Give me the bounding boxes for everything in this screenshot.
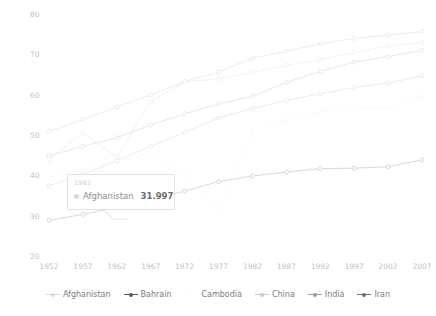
data-point[interactable] xyxy=(386,81,390,85)
x-axis-tick-label: 2002 xyxy=(379,262,398,271)
data-point[interactable] xyxy=(420,30,424,34)
data-point[interactable] xyxy=(149,93,153,97)
x-axis-ticks: 1952195719621967197219771982198719921997… xyxy=(39,262,431,271)
data-point[interactable] xyxy=(81,168,85,172)
data-point[interactable] xyxy=(250,129,254,133)
data-point[interactable] xyxy=(217,102,221,106)
data-point[interactable] xyxy=(115,159,119,163)
data-point[interactable] xyxy=(284,63,288,67)
data-point[interactable] xyxy=(352,166,356,170)
legend-marker-icon xyxy=(357,290,371,299)
data-point[interactable] xyxy=(149,99,153,103)
data-point[interactable] xyxy=(386,165,390,169)
data-point[interactable] xyxy=(420,74,424,78)
data-point[interactable] xyxy=(183,189,187,193)
data-point[interactable] xyxy=(318,110,322,114)
data-point[interactable] xyxy=(47,154,51,158)
tooltip-series-row: Afghanistan 31.997 xyxy=(74,191,168,201)
data-point[interactable] xyxy=(386,55,390,59)
legend-item-label: Cambodia xyxy=(201,290,241,299)
legend-item-afghanistan[interactable]: Afghanistan xyxy=(46,290,111,299)
x-axis-tick-label: 1982 xyxy=(243,262,262,271)
x-axis-tick-label: 1952 xyxy=(39,262,58,271)
data-point[interactable] xyxy=(47,176,51,180)
data-point[interactable] xyxy=(149,151,153,155)
legend-item-iran[interactable]: Iran xyxy=(357,290,390,299)
legend-marker-icon xyxy=(308,290,322,299)
data-point[interactable] xyxy=(284,170,288,174)
data-point[interactable] xyxy=(420,48,424,52)
data-point[interactable] xyxy=(149,123,153,127)
data-point[interactable] xyxy=(386,33,390,37)
data-point[interactable] xyxy=(115,136,119,140)
legend-item-label: India xyxy=(325,290,345,299)
legend-item-label: Bahrain xyxy=(141,290,172,299)
y-axis-tick-label: 60 xyxy=(30,91,40,100)
data-point[interactable] xyxy=(217,209,221,213)
data-point[interactable] xyxy=(284,117,288,121)
data-point[interactable] xyxy=(81,131,85,135)
data-point[interactable] xyxy=(217,77,221,81)
x-axis-tick-label: 1972 xyxy=(175,262,194,271)
data-point[interactable] xyxy=(318,58,322,62)
data-point[interactable] xyxy=(284,49,288,53)
legend-item-bahrain[interactable]: Bahrain xyxy=(124,290,172,299)
data-point[interactable] xyxy=(217,180,221,184)
data-point[interactable] xyxy=(352,86,356,90)
data-point[interactable] xyxy=(420,94,424,98)
data-point[interactable] xyxy=(217,70,221,74)
data-point[interactable] xyxy=(217,116,221,120)
y-axis-tick-label: 70 xyxy=(30,50,40,59)
tooltip-series-swatch-icon xyxy=(74,194,79,199)
x-axis-tick-label: 1967 xyxy=(141,262,160,271)
data-point[interactable] xyxy=(420,40,424,44)
x-axis-tick-label: 1957 xyxy=(73,262,92,271)
y-axis-ticks: 20304050607080 xyxy=(30,10,40,261)
x-axis-tick-label: 1977 xyxy=(209,262,228,271)
series-china xyxy=(47,40,424,161)
data-point[interactable] xyxy=(352,37,356,41)
data-point[interactable] xyxy=(47,219,51,223)
data-point[interactable] xyxy=(352,51,356,55)
data-point[interactable] xyxy=(183,130,187,134)
legend-item-label: Afghanistan xyxy=(63,290,111,299)
data-point[interactable] xyxy=(81,118,85,122)
data-point[interactable] xyxy=(81,144,85,148)
data-point[interactable] xyxy=(386,44,390,48)
data-point[interactable] xyxy=(318,70,322,74)
x-axis-tick-label: 2007 xyxy=(412,262,431,271)
line-chart: 20304050607080 1952195719621967197219771… xyxy=(0,0,436,316)
data-point[interactable] xyxy=(183,80,187,84)
tooltip-year-label: 1962 xyxy=(74,179,168,188)
legend-marker-icon xyxy=(184,290,198,299)
x-axis-tick-label: 1962 xyxy=(107,262,126,271)
legend-item-cambodia[interactable]: Cambodia xyxy=(184,290,241,299)
data-point[interactable] xyxy=(318,167,322,171)
data-point[interactable] xyxy=(318,92,322,96)
data-point[interactable] xyxy=(47,184,51,188)
chart-legend: AfghanistanBahrainCambodiaChinaIndiaIran xyxy=(0,290,436,299)
tooltip-series-value: 31.997 xyxy=(141,191,174,201)
data-point[interactable] xyxy=(250,174,254,178)
data-point[interactable] xyxy=(250,70,254,74)
data-point[interactable] xyxy=(115,105,119,109)
y-axis-tick-label: 80 xyxy=(30,10,40,19)
data-point[interactable] xyxy=(250,106,254,110)
legend-item-india[interactable]: India xyxy=(308,290,345,299)
data-point[interactable] xyxy=(149,144,153,148)
data-point[interactable] xyxy=(420,158,424,162)
tooltip-pointer-icon xyxy=(103,209,127,221)
data-point[interactable] xyxy=(81,212,85,216)
data-point[interactable] xyxy=(318,42,322,46)
data-point[interactable] xyxy=(284,99,288,103)
data-point[interactable] xyxy=(183,112,187,116)
data-point[interactable] xyxy=(284,80,288,84)
data-point[interactable] xyxy=(352,107,356,111)
data-point[interactable] xyxy=(386,106,390,110)
data-point[interactable] xyxy=(352,60,356,64)
data-point[interactable] xyxy=(250,56,254,60)
data-point[interactable] xyxy=(183,172,187,176)
data-point[interactable] xyxy=(47,129,51,133)
legend-item-china[interactable]: China xyxy=(255,290,295,299)
data-point[interactable] xyxy=(250,94,254,98)
